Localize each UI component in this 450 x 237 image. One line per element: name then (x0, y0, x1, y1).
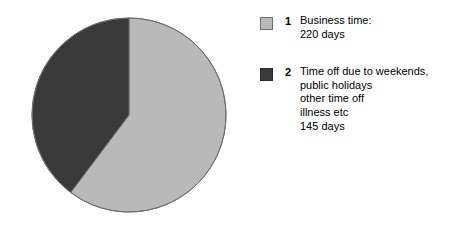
legend-line: other time off (300, 92, 446, 106)
legend-line: 145 days (300, 120, 446, 134)
legend-entry-2: 2 Time off due to weekends, public holid… (260, 65, 446, 133)
legend-line: illness etc (300, 106, 446, 120)
legend-line: 220 days (300, 28, 446, 42)
legend-line: Business time: (300, 14, 446, 28)
legend-line: Time off due to weekends, (300, 65, 446, 79)
legend-line: public holidays (300, 79, 446, 93)
legend-swatch-time-off (260, 68, 273, 81)
legend-text-2: Time off due to weekends, public holiday… (300, 65, 446, 133)
legend-text-1: Business time: 220 days (300, 14, 446, 41)
legend-entry-1: 1 Business time: 220 days (260, 14, 446, 41)
legend-index-1: 1 (285, 14, 291, 28)
legend-index-2: 2 (285, 65, 291, 79)
legend-swatch-business-time (260, 17, 273, 30)
pie-chart-figure: 1 Business time: 220 days 2 Time off due… (0, 0, 450, 237)
chart-legend: 1 Business time: 220 days 2 Time off due… (260, 14, 446, 149)
